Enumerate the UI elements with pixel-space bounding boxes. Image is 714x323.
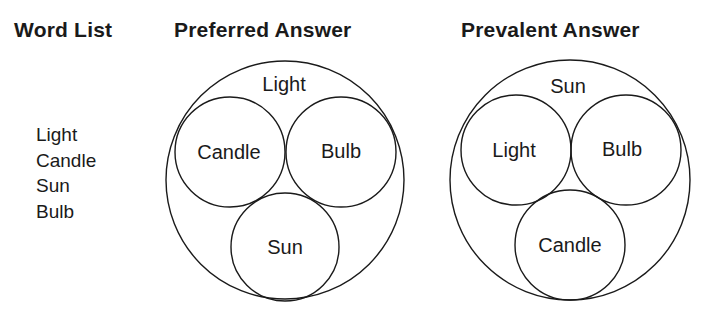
preferred-inner-label: Sun bbox=[267, 236, 303, 258]
preferred-inner-label: Bulb bbox=[321, 140, 361, 162]
prevalent-outer-label: Sun bbox=[550, 75, 586, 97]
preferred-inner-label: Candle bbox=[197, 141, 260, 163]
diagrams: Light Candle Bulb Sun Sun Light Bulb Can… bbox=[0, 0, 714, 323]
preferred-outer-circle bbox=[166, 61, 404, 299]
preferred-outer-label: Light bbox=[262, 73, 306, 95]
preferred-diagram bbox=[166, 61, 404, 301]
prevalent-inner-label: Candle bbox=[538, 234, 601, 256]
prevalent-inner-label: Bulb bbox=[602, 138, 642, 160]
prevalent-inner-label: Light bbox=[492, 139, 536, 161]
